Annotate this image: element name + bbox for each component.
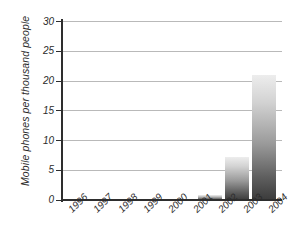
- y-tick-label-0: 0: [28, 194, 54, 205]
- bar-2004: [252, 75, 276, 200]
- y-tick-label-30: 30: [28, 16, 54, 27]
- gridline-30: [62, 21, 282, 22]
- y-tick-label-15: 15: [28, 105, 54, 116]
- y-axis-tick-labels: 30 25 20 15 10 5 0: [24, 0, 54, 242]
- gridline-5: [62, 170, 282, 171]
- y-tick-label-10: 10: [28, 135, 54, 146]
- gridline-10: [62, 140, 282, 141]
- gridline-25: [62, 51, 282, 52]
- y-tick-label-20: 20: [28, 75, 54, 86]
- y-axis-line: [61, 19, 63, 202]
- x-axis-tick-labels: 1996 1997 1998 1999 2000 2001 2002 2003 …: [62, 201, 282, 242]
- y-tick-label-5: 5: [28, 164, 54, 175]
- bar-chart: Mobile phones per thousand people 30 25 …: [0, 0, 289, 242]
- y-tick-label-25: 25: [28, 45, 54, 56]
- gridline-20: [62, 81, 282, 82]
- gridline-15: [62, 110, 282, 111]
- plot-area: [62, 21, 282, 200]
